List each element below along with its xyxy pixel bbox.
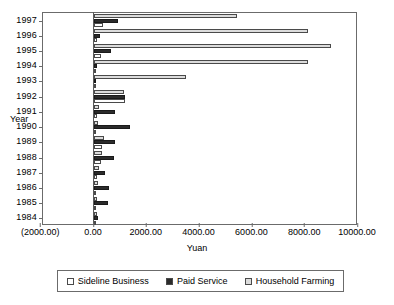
bar-chart: Year 19971996199519941993199219911990198… bbox=[0, 0, 394, 305]
bar-household-farming-1985 bbox=[94, 197, 97, 201]
legend-swatch-icon bbox=[67, 278, 74, 285]
y-tick-mark bbox=[39, 142, 43, 143]
y-tick-mark bbox=[39, 173, 43, 174]
y-axis-label-1988: 1988 bbox=[16, 152, 37, 162]
bar-sideline-business-1987 bbox=[94, 175, 97, 179]
y-axis-label-1991: 1991 bbox=[16, 106, 37, 116]
y-tick-mark bbox=[39, 203, 43, 204]
bar-sideline-business-1985 bbox=[94, 206, 96, 210]
legend-swatch-icon bbox=[245, 278, 252, 285]
y-tick-mark bbox=[39, 51, 43, 52]
bar-household-farming-1988 bbox=[94, 151, 102, 155]
bar-paid-service-1990 bbox=[94, 125, 130, 129]
bar-household-farming-1990 bbox=[94, 121, 98, 125]
x-axis-tick-3: 4000.00 bbox=[182, 227, 215, 237]
bar-paid-service-1989 bbox=[94, 140, 115, 144]
y-axis-label-1993: 1993 bbox=[16, 75, 37, 85]
bar-paid-service-1993 bbox=[94, 79, 96, 83]
bar-household-farming-1993 bbox=[94, 75, 186, 79]
bar-household-farming-1989 bbox=[94, 136, 104, 140]
bar-sideline-business-1996 bbox=[94, 38, 97, 42]
bar-sideline-business-1990 bbox=[94, 130, 96, 134]
bar-group-1996: 1996 bbox=[43, 28, 356, 43]
x-tick-mark bbox=[251, 223, 252, 227]
y-tick-mark bbox=[39, 127, 43, 128]
bar-group-1989: 1989 bbox=[43, 135, 356, 150]
bar-sideline-business-1984 bbox=[94, 221, 96, 225]
bar-sideline-business-1992 bbox=[94, 99, 125, 103]
bar-household-farming-1986 bbox=[94, 181, 98, 185]
bar-group-1990: 1990 bbox=[43, 120, 356, 135]
x-axis-ticks: (2000.00)0.002000.004000.006000.008000.0… bbox=[0, 227, 394, 241]
bar-sideline-business-1988 bbox=[94, 160, 101, 164]
bar-paid-service-1985 bbox=[94, 201, 108, 205]
legend-swatch-icon bbox=[166, 278, 173, 285]
x-axis-tick-2: 2000.00 bbox=[130, 227, 163, 237]
bar-paid-service-1991 bbox=[94, 110, 115, 114]
x-axis-tick-0: (2000.00) bbox=[21, 227, 60, 237]
bar-household-farming-1987 bbox=[94, 166, 99, 170]
bar-sideline-business-1995 bbox=[94, 54, 101, 58]
plot-area: 1997199619951994199319921991199019891988… bbox=[42, 12, 357, 225]
chart-legend: Sideline BusinessPaid ServiceHousehold F… bbox=[57, 270, 344, 292]
y-tick-mark bbox=[39, 97, 43, 98]
bar-group-1994: 1994 bbox=[43, 59, 356, 74]
bar-paid-service-1994 bbox=[94, 64, 97, 68]
bar-sideline-business-1994 bbox=[94, 69, 96, 73]
bar-group-1986: 1986 bbox=[43, 180, 356, 195]
legend-item-household-farming[interactable]: Household Farming bbox=[245, 276, 335, 286]
y-tick-mark bbox=[39, 66, 43, 67]
y-tick-mark bbox=[39, 158, 43, 159]
legend-item-sideline-business[interactable]: Sideline Business bbox=[67, 276, 149, 286]
bar-household-farming-1984 bbox=[94, 212, 97, 216]
x-tick-mark bbox=[199, 223, 200, 227]
bar-group-1997: 1997 bbox=[43, 13, 356, 28]
bar-group-1992: 1992 bbox=[43, 89, 356, 104]
y-tick-mark bbox=[39, 21, 43, 22]
bar-paid-service-1992 bbox=[94, 95, 125, 99]
y-axis-label-1994: 1994 bbox=[16, 60, 37, 70]
bar-paid-service-1995 bbox=[94, 49, 111, 53]
bar-sideline-business-1993 bbox=[94, 84, 96, 88]
legend-label: Household Farming bbox=[256, 276, 335, 286]
bar-household-farming-1992 bbox=[94, 90, 124, 94]
bar-group-1988: 1988 bbox=[43, 150, 356, 165]
bar-sideline-business-1989 bbox=[94, 145, 102, 149]
x-tick-mark bbox=[40, 223, 41, 227]
x-axis-tick-1: 0.00 bbox=[84, 227, 102, 237]
y-tick-mark bbox=[39, 112, 43, 113]
bar-household-farming-1991 bbox=[94, 105, 99, 109]
bar-paid-service-1988 bbox=[94, 156, 114, 160]
bar-sideline-business-1991 bbox=[94, 114, 97, 118]
bar-group-1991: 1991 bbox=[43, 104, 356, 119]
bar-group-1987: 1987 bbox=[43, 165, 356, 180]
bar-household-farming-1995 bbox=[94, 44, 331, 48]
y-axis-label-1996: 1996 bbox=[16, 30, 37, 40]
bar-household-farming-1996 bbox=[94, 29, 308, 33]
zero-baseline bbox=[93, 12, 94, 225]
bar-paid-service-1984 bbox=[94, 216, 98, 220]
bar-group-1993: 1993 bbox=[43, 74, 356, 89]
x-axis-tick-4: 6000.00 bbox=[235, 227, 268, 237]
x-tick-mark bbox=[357, 223, 358, 227]
y-axis-label-1984: 1984 bbox=[16, 212, 37, 222]
bar-paid-service-1986 bbox=[94, 186, 109, 190]
x-tick-mark bbox=[146, 223, 147, 227]
legend-item-paid-service[interactable]: Paid Service bbox=[166, 276, 228, 286]
y-tick-mark bbox=[39, 81, 43, 82]
y-axis-label-1989: 1989 bbox=[16, 136, 37, 146]
bar-sideline-business-1986 bbox=[94, 191, 96, 195]
y-axis-label-1997: 1997 bbox=[16, 15, 37, 25]
bar-rows-container: 1997199619951994199319921991199019891988… bbox=[43, 13, 356, 224]
legend-label: Sideline Business bbox=[78, 276, 149, 286]
x-axis-tick-5: 8000.00 bbox=[288, 227, 321, 237]
x-axis-title: Yuan bbox=[0, 243, 394, 253]
legend-label: Paid Service bbox=[177, 276, 228, 286]
x-tick-mark bbox=[93, 223, 94, 227]
y-tick-mark bbox=[39, 218, 43, 219]
bar-household-farming-1997 bbox=[94, 14, 237, 18]
y-axis-label-1995: 1995 bbox=[16, 45, 37, 55]
bar-paid-service-1996 bbox=[94, 34, 100, 38]
bar-household-farming-1994 bbox=[94, 60, 308, 64]
bar-paid-service-1987 bbox=[94, 171, 105, 175]
